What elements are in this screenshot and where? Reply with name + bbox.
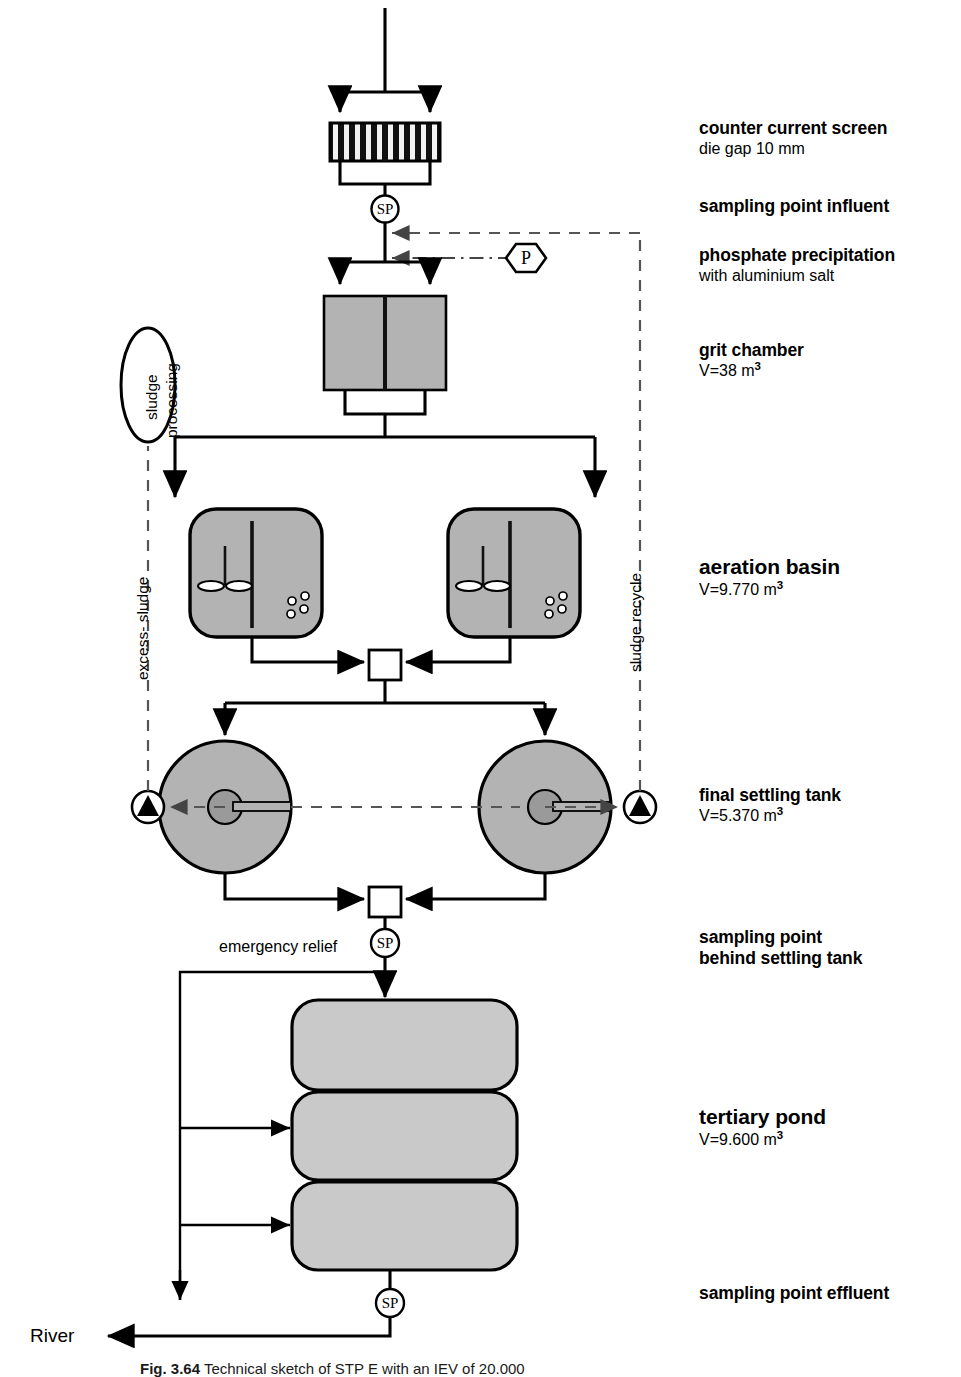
phosphate-node-text: P bbox=[521, 248, 531, 268]
label-sampling-point-effluent: sampling point effluent bbox=[699, 1283, 889, 1304]
figure-caption-text: Technical sketch of STP E with an IEV of… bbox=[204, 1360, 525, 1377]
label-exponent: 3 bbox=[777, 578, 783, 590]
label-sampling-point-influent: sampling point influent bbox=[699, 196, 889, 217]
label-title-line2: behind settling tank bbox=[699, 948, 862, 969]
label-phosphate-precipitation: phosphate precipitation with aluminium s… bbox=[699, 245, 895, 286]
river-label: River bbox=[30, 1325, 74, 1347]
label-sub-text: V=5.370 m bbox=[699, 807, 777, 824]
distribution-box-settling bbox=[369, 887, 401, 917]
distribution-box-aeration bbox=[369, 650, 401, 680]
label-sub-text: V=9.770 m bbox=[699, 581, 777, 598]
label-sub-text: V=9.600 m bbox=[699, 1131, 777, 1148]
sludge-recycle-label: sludge recycle bbox=[627, 573, 645, 672]
label-aeration-basin: aeration basin V=9.770 m3 bbox=[699, 555, 840, 600]
label-title: sampling point bbox=[699, 927, 862, 948]
figure-caption-number: Fig. 3.64 bbox=[140, 1360, 200, 1377]
sp-influent-text: SP bbox=[377, 201, 394, 217]
tertiary-pond-2-body bbox=[292, 1092, 517, 1180]
label-title: grit chamber bbox=[699, 340, 804, 361]
label-title: phosphate precipitation bbox=[699, 245, 895, 266]
tertiary-pond-3-body bbox=[292, 1182, 517, 1270]
label-title: sampling point influent bbox=[699, 196, 889, 217]
label-sub: V=5.370 m3 bbox=[699, 807, 841, 826]
label-final-settling-tank: final settling tank V=5.370 m3 bbox=[699, 785, 841, 826]
aeration-basin-right-body bbox=[448, 509, 580, 637]
label-sub: V=38 m3 bbox=[699, 362, 804, 381]
label-title: counter current screen bbox=[699, 118, 887, 139]
label-exponent: 3 bbox=[777, 1128, 783, 1140]
sp-settling-text: SP bbox=[377, 935, 394, 951]
label-sub: V=9.600 m3 bbox=[699, 1131, 826, 1150]
label-sub-text: V=38 m bbox=[699, 362, 755, 379]
label-title: sampling point effluent bbox=[699, 1283, 889, 1304]
label-grit-chamber: grit chamber V=38 m3 bbox=[699, 340, 804, 381]
tertiary-pond-1-body bbox=[292, 1000, 517, 1090]
label-sub: die gap 10 mm bbox=[699, 140, 887, 159]
label-exponent: 3 bbox=[777, 804, 783, 816]
emergency-relief-label: emergency relief bbox=[219, 938, 337, 956]
label-sampling-point-settling: sampling point behind settling tank bbox=[699, 927, 862, 968]
figure-caption: Fig. 3.64 Technical sketch of STP E with… bbox=[140, 1360, 525, 1377]
sludge-processing-label-line1: sludge bbox=[143, 374, 161, 420]
label-sub: with aluminium salt bbox=[699, 267, 895, 286]
label-title: tertiary pond bbox=[699, 1105, 826, 1130]
label-tertiary-pond: tertiary pond V=9.600 m3 bbox=[699, 1105, 826, 1150]
excess-sludge-label: excess- sludge bbox=[134, 577, 152, 680]
label-title: aeration basin bbox=[699, 555, 840, 580]
sp-effluent-text: SP bbox=[382, 1295, 399, 1311]
aeration-basin-left-body bbox=[190, 509, 322, 637]
label-title: final settling tank bbox=[699, 785, 841, 806]
label-exponent: 3 bbox=[755, 359, 761, 371]
sludge-processing-label-line2: processing bbox=[163, 363, 181, 438]
label-counter-current-screen: counter current screen die gap 10 mm bbox=[699, 118, 887, 159]
label-sub: V=9.770 m3 bbox=[699, 581, 840, 600]
